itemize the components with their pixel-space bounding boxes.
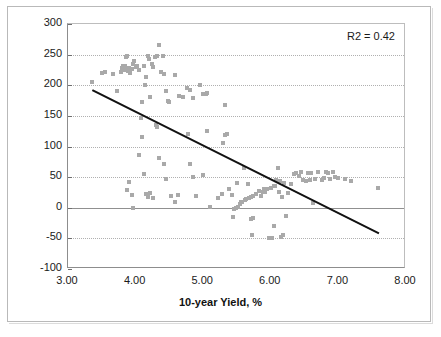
scatter-point (270, 236, 274, 240)
scatter-point (176, 193, 180, 197)
scatter-point (205, 91, 209, 95)
scatter-point (281, 233, 285, 237)
scatter-point (230, 193, 234, 197)
scatter-point (336, 176, 340, 180)
scatter-point (191, 175, 195, 179)
y-tick-mark (68, 208, 72, 209)
scatter-point (221, 141, 225, 145)
scatter-point (331, 170, 335, 174)
gridline (68, 238, 404, 239)
scatter-point (299, 170, 303, 174)
y-tick-label: 300 (20, 16, 62, 28)
gridline (68, 116, 404, 117)
scatter-point (147, 57, 151, 61)
scatter-point (155, 54, 159, 58)
scatter-point (273, 184, 277, 188)
scatter-point (139, 116, 143, 120)
scatter-point (191, 96, 195, 100)
scatter-point (309, 171, 313, 175)
scatter-point (231, 215, 235, 219)
gridline (68, 147, 404, 148)
scatter-point (167, 100, 171, 104)
scatter-point (140, 100, 144, 104)
scatter-point (376, 186, 380, 190)
scatter-point (254, 192, 258, 196)
scatter-point (130, 193, 134, 197)
scatter-point (188, 162, 192, 166)
gridline (68, 55, 404, 56)
scatter-point (205, 129, 209, 133)
y-tick-label: 150 (20, 108, 62, 120)
r2-annotation: R2 = 0.42 (347, 30, 395, 42)
gridline (68, 177, 404, 178)
scatter-point (286, 191, 290, 195)
scatter-point (137, 153, 141, 157)
scatter-point (169, 194, 173, 198)
scatter-point (250, 233, 254, 237)
scatter-point (308, 178, 312, 182)
scatter-point (142, 172, 146, 176)
scatter-point (282, 181, 286, 185)
scatter-point (263, 190, 267, 194)
plot-area: R2 = 0.42 (67, 23, 405, 268)
scatter-point (140, 135, 144, 139)
scatter-point (220, 192, 224, 196)
scatter-point (316, 170, 320, 174)
trendline-segment (92, 90, 379, 233)
scatter-point (284, 214, 288, 218)
scatter-point (277, 190, 281, 194)
y-tick-label: -100 (20, 261, 62, 273)
scatter-point (251, 216, 255, 220)
scatter-point (188, 88, 192, 92)
scatter-point (289, 182, 293, 186)
scatter-point (181, 95, 185, 99)
scatter-point (227, 187, 231, 191)
x-tick-label: 5.00 (177, 274, 227, 286)
scatter-point (155, 125, 159, 129)
scatter-point (143, 83, 147, 87)
scatter-point (349, 179, 353, 183)
scatter-point (198, 83, 202, 87)
scatter-point (328, 177, 332, 181)
scatter-point (127, 180, 131, 184)
x-tick-label: 6.00 (245, 274, 295, 286)
scatter-point (259, 194, 263, 198)
x-tick-label: 7.00 (312, 274, 362, 286)
scatter-point (151, 65, 155, 69)
y-tick-mark (68, 177, 72, 178)
scatter-point (144, 75, 148, 79)
scatter-point (272, 224, 276, 228)
y-tick-mark (68, 116, 72, 117)
y-tick-mark (68, 85, 72, 86)
scatter-point (137, 68, 141, 72)
scatter-point (322, 176, 326, 180)
y-tick-label: 0 (20, 200, 62, 212)
scatter-point (142, 64, 146, 68)
scatter-point (115, 89, 119, 93)
x-axis-title: 10-year Yield, % (0, 296, 441, 308)
scatter-point (148, 191, 152, 195)
scatter-point (162, 72, 166, 76)
scatter-point (148, 95, 152, 99)
gridline (68, 85, 404, 86)
scatter-point (173, 200, 177, 204)
scatter-point (90, 80, 94, 84)
y-tick-label: 250 (20, 47, 62, 59)
scatter-point (162, 162, 166, 166)
scatter-point (128, 71, 132, 75)
scatter-point (242, 166, 246, 170)
scatter-point (276, 166, 280, 170)
scatter-point (151, 196, 155, 200)
scatter-point (225, 132, 229, 136)
y-tick-label: -50 (20, 230, 62, 242)
scatter-point (125, 54, 129, 58)
scatter-point (246, 182, 250, 186)
x-tick-label: 4.00 (110, 274, 160, 286)
scatter-point (194, 194, 198, 198)
scatter-point (235, 181, 239, 185)
scatter-point (343, 177, 347, 181)
y-tick-label: 50 (20, 169, 62, 181)
scatter-point (157, 156, 161, 160)
y-tick-mark (68, 269, 72, 270)
scatter-point (131, 206, 135, 210)
